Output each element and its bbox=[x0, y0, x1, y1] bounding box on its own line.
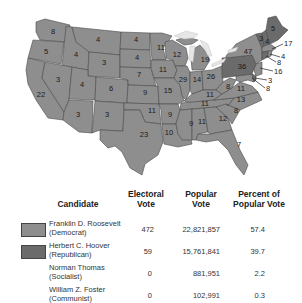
label-az: 3 bbox=[76, 110, 80, 119]
popular-vote-cell: 22,821,857 bbox=[170, 225, 220, 234]
label-id: 4 bbox=[74, 50, 78, 59]
label-ct: 8 bbox=[277, 58, 281, 67]
us-electoral-map: 8 5 22 4 3 4 3 4 3 6 3 4 4 7 9 11 23 11 … bbox=[0, 0, 302, 190]
percent-cell: 57.4 bbox=[240, 225, 265, 234]
label-sd: 4 bbox=[135, 53, 139, 62]
label-fl: 7 bbox=[237, 140, 241, 149]
label-ne: 7 bbox=[137, 70, 141, 79]
label-ga: 12 bbox=[219, 114, 227, 123]
label-in: 14 bbox=[193, 75, 201, 84]
label-or: 5 bbox=[44, 47, 48, 56]
state-ct bbox=[262, 51, 268, 60]
popular-vote-cell: 881,951 bbox=[170, 269, 220, 278]
popular-vote-cell: 102,991 bbox=[170, 291, 220, 300]
label-wa: 8 bbox=[51, 27, 55, 36]
candidate-party: (Communist) bbox=[49, 295, 105, 303]
table-row-foster: William Z. Foster (Communist) 0 102,991 … bbox=[0, 285, 302, 303]
label-va: 11 bbox=[237, 84, 245, 93]
label-sc: 8 bbox=[234, 106, 238, 115]
header-percent-line2: Popular Vote bbox=[228, 200, 290, 210]
label-ia: 11 bbox=[159, 65, 167, 74]
label-nv: 3 bbox=[56, 75, 60, 84]
label-mi: 19 bbox=[201, 55, 209, 64]
label-la: 10 bbox=[165, 128, 173, 137]
header-popular-line2: Vote bbox=[176, 200, 226, 210]
table-row-hoover: Herbert C. Hoover (Republican) 59 15,761… bbox=[0, 241, 302, 263]
label-ks: 9 bbox=[143, 88, 147, 97]
percent-cell: 0.3 bbox=[240, 291, 265, 300]
label-tx: 23 bbox=[140, 130, 148, 139]
democrat-swatch bbox=[21, 223, 46, 237]
candidate-cell: Norman Thomas (Socialist) bbox=[49, 264, 105, 281]
electoral-vote-cell: 472 bbox=[128, 225, 154, 234]
label-md: 8 bbox=[266, 84, 270, 93]
label-nc: 13 bbox=[237, 95, 245, 104]
label-nh: 4 bbox=[265, 37, 269, 46]
republican-swatch bbox=[21, 245, 46, 259]
label-ma: 17 bbox=[284, 39, 292, 48]
header-electoral-line2: Vote bbox=[120, 200, 172, 210]
candidate-party: (Republican) bbox=[49, 251, 110, 260]
label-ny: 47 bbox=[244, 47, 252, 56]
leader-ct bbox=[266, 56, 276, 62]
label-ut: 4 bbox=[80, 80, 84, 89]
candidate-cell: Franklin D. Roosevelt (Democrat) bbox=[49, 220, 121, 237]
leader-de bbox=[255, 78, 267, 80]
label-ar: 9 bbox=[168, 110, 172, 119]
table-row-roosevelt: Franklin D. Roosevelt (Democrat) 472 22,… bbox=[0, 219, 302, 241]
percent-cell: 39.7 bbox=[240, 247, 265, 256]
electoral-vote-cell: 0 bbox=[128, 269, 152, 278]
label-wv: 8 bbox=[226, 82, 230, 91]
label-mn: 11 bbox=[157, 43, 165, 52]
percent-cell: 2.2 bbox=[240, 269, 265, 278]
state-fl bbox=[196, 130, 248, 175]
label-ky: 11 bbox=[206, 90, 214, 99]
table-row-thomas: Norman Thomas (Socialist) 0 881,951 2.2 bbox=[0, 263, 302, 285]
candidate-party: (Democrat) bbox=[49, 229, 121, 238]
electoral-vote-cell: 59 bbox=[128, 247, 152, 256]
state-shapes bbox=[26, 16, 288, 175]
label-ri: 4 bbox=[281, 52, 285, 61]
label-al: 11 bbox=[198, 117, 206, 126]
label-nd: 4 bbox=[134, 35, 138, 44]
popular-vote-cell: 15,761,841 bbox=[170, 247, 220, 256]
header-electoral-vote: Electoral Vote bbox=[120, 190, 172, 209]
label-nm: 3 bbox=[105, 110, 109, 119]
label-wy: 3 bbox=[102, 58, 106, 67]
label-ca: 22 bbox=[37, 90, 45, 99]
label-il: 29 bbox=[179, 75, 187, 84]
label-tn: 11 bbox=[201, 99, 209, 108]
label-nj: 16 bbox=[274, 67, 282, 76]
label-ok: 11 bbox=[148, 106, 156, 115]
leader-ri bbox=[270, 54, 280, 57]
label-mo: 15 bbox=[164, 86, 172, 95]
electoral-vote-cell: 0 bbox=[128, 291, 152, 300]
candidate-party: (Socialist) bbox=[49, 273, 105, 282]
candidate-cell: William Z. Foster (Communist) bbox=[49, 286, 105, 303]
candidate-cell: Herbert C. Hoover (Republican) bbox=[49, 242, 110, 259]
header-percent-popular: Percent of Popular Vote bbox=[228, 190, 290, 209]
label-me: 5 bbox=[271, 24, 275, 33]
label-mt: 4 bbox=[96, 35, 100, 44]
label-wi: 12 bbox=[173, 50, 181, 59]
label-vt: 3 bbox=[259, 34, 263, 43]
header-popular-vote: Popular Vote bbox=[176, 190, 226, 209]
label-co: 6 bbox=[109, 84, 113, 93]
label-ms: 9 bbox=[189, 119, 193, 128]
label-oh: 26 bbox=[207, 72, 215, 81]
label-pa: 36 bbox=[238, 62, 246, 71]
header-candidate: Candidate bbox=[42, 200, 114, 210]
